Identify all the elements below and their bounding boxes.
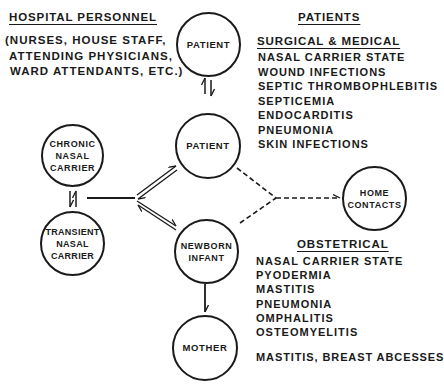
node-label: CARRIER — [45, 250, 99, 262]
list-item: MASTITIS — [256, 282, 403, 296]
personnel-line: WARD ATTENDANTS, ETC.) — [5, 64, 183, 80]
list-item: ENDOCARDITIS — [258, 108, 438, 123]
node-chronic-nasal-carrier: CHRONIC NASAL CARRIER — [41, 124, 104, 187]
node-label: NEWBORN — [181, 240, 233, 252]
list-item: SKIN INFECTIONS — [258, 137, 438, 152]
obstetrical-heading: OBSTETRICAL — [297, 237, 389, 251]
node-newborn-infant: NEWBORN INFANT — [174, 219, 239, 284]
list-item: PYODERMIA — [256, 268, 403, 282]
node-label: MOTHER — [183, 342, 228, 354]
node-label: CARRIER — [49, 162, 95, 174]
node-label: CONTACTS — [347, 199, 401, 211]
node-label: NASAL — [49, 150, 95, 162]
list-item: NASAL CARRIER STATE — [256, 254, 403, 268]
list-item: SEPTIC THROMBOPHLEBITIS — [258, 79, 438, 94]
hospital-personnel-examples: (NURSES, HOUSE STAFF, ATTENDING PHYSICIA… — [5, 33, 183, 80]
node-mother: MOTHER — [172, 315, 238, 381]
personnel-line: (NURSES, HOUSE STAFF, — [5, 33, 183, 49]
surgical-medical-heading: SURGICAL & MEDICAL — [257, 34, 400, 48]
node-label: HOME — [347, 187, 401, 199]
hospital-personnel-heading: HOSPITAL PERSONNEL — [9, 10, 157, 24]
node-patient-mid: PATIENT — [175, 113, 241, 179]
surgical-medical-list: NASAL CARRIER STATE WOUND INFECTIONS SEP… — [258, 50, 438, 152]
list-item: SEPTICEMIA — [258, 94, 438, 109]
list-item: PNEUMONIA — [258, 123, 438, 138]
list-item: OSTEOMYELITIS — [256, 325, 403, 339]
node-label: TRANSIENT — [45, 226, 99, 238]
node-transient-nasal-carrier: TRANSIENT NASAL CARRIER — [40, 211, 105, 276]
node-label: CHRONIC — [49, 138, 95, 150]
node-patient-top: PATIENT — [176, 12, 241, 77]
node-home-contacts: HOME CONTACTS — [342, 166, 407, 231]
list-item: NASAL CARRIER STATE — [258, 50, 438, 65]
mother-infections-note: MASTITIS, BREAST ABCESSES — [256, 350, 444, 364]
personnel-line: ATTENDING PHYSICIANS, — [5, 49, 183, 65]
node-label: PATIENT — [187, 39, 230, 51]
list-item: OMPHALITIS — [256, 311, 403, 325]
node-label: NASAL — [45, 238, 99, 250]
dashed-home-contacts-arrows — [237, 168, 340, 223]
patient-patient-exchange-arrows — [205, 78, 211, 96]
patients-heading: PATIENTS — [298, 10, 360, 24]
list-item: PNEUMONIA — [256, 297, 403, 311]
list-item: WOUND INFECTIONS — [258, 65, 438, 80]
chronic-transient-exchange-arrows — [70, 191, 76, 207]
obstetrical-list: NASAL CARRIER STATE PYODERMIA MASTITIS P… — [256, 254, 403, 339]
junction-newborn-arrows — [137, 201, 176, 230]
node-label: PATIENT — [186, 140, 229, 152]
junction-patient-arrows — [137, 166, 177, 199]
node-label: INFANT — [181, 252, 233, 264]
